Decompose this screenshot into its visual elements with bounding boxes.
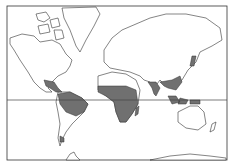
world-map [0, 0, 231, 164]
